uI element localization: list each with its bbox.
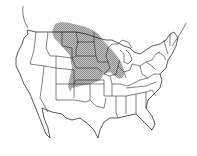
canada-border-west — [23, 6, 28, 28]
us-map — [0, 0, 197, 156]
canada-border-east — [172, 23, 186, 46]
